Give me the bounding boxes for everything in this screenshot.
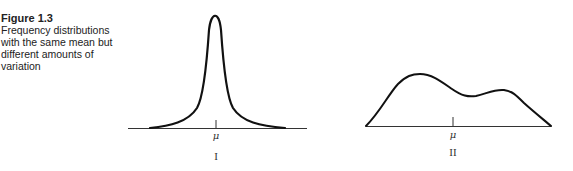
mean-label-ii: μ xyxy=(450,129,457,140)
mean-label-i: μ xyxy=(213,130,220,141)
figure-plots: μ I μ II xyxy=(0,0,573,171)
curve-i xyxy=(150,16,285,128)
panel-label-i: I xyxy=(214,150,218,162)
panel-ii: μ II xyxy=(366,74,551,158)
panel-i: μ I xyxy=(128,16,307,162)
curve-ii xyxy=(366,74,551,126)
panel-label-ii: II xyxy=(449,146,457,158)
